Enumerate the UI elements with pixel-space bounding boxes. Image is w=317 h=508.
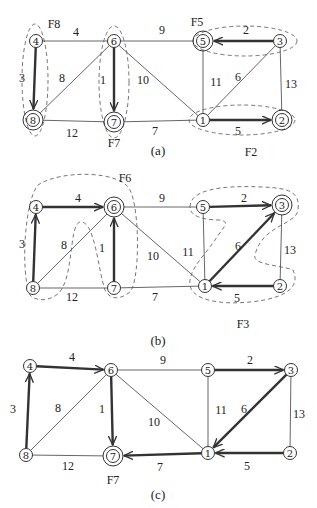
arc-weight-label: 2 [247, 353, 253, 367]
node-label: 6 [111, 36, 117, 47]
edge-3-2 [280, 47, 282, 110]
arc-weight-label: 1 [99, 241, 105, 255]
edge-7-1 [124, 120, 197, 122]
node-label: 7 [111, 283, 117, 294]
node-label: 4 [33, 202, 39, 213]
node-label: 2 [277, 281, 283, 292]
graph-node-7: 7 [108, 282, 121, 295]
edge-weight-label: 11 [215, 403, 227, 417]
node-label: 3 [288, 365, 294, 376]
arc-weight-label: 2 [243, 23, 249, 37]
fragment-label: F2 [245, 145, 258, 159]
graph-canvas: 465387124653871246538712 491278101161331… [0, 0, 317, 508]
edge-5-1 [203, 213, 205, 279]
arc-4-6 [36, 366, 103, 369]
graph-node-1: 1 [199, 280, 212, 293]
edge-weight-label: 4 [73, 25, 79, 39]
edge-weight-label: 8 [59, 71, 65, 85]
arc-weight-label: 2 [241, 191, 247, 205]
graph-node-3: 3 [285, 364, 298, 377]
node-label: 1 [200, 115, 206, 126]
graph-node-8: 8 [20, 449, 33, 462]
edge-6-1 [119, 45, 198, 115]
edge-weight-label: 13 [284, 243, 296, 257]
fragment-label: F5 [191, 15, 204, 29]
graph-node-5: 5 [193, 31, 213, 51]
edge-weight-label: 13 [293, 407, 305, 421]
edge-6-8 [40, 46, 109, 113]
node-label: 6 [111, 202, 117, 213]
fragment-label: F8 [48, 17, 61, 31]
arc-weight-label: 6 [235, 239, 241, 253]
edge-weight-label: 10 [147, 249, 159, 263]
graph-node-1: 1 [197, 114, 210, 127]
edge-weight-label: 12 [66, 126, 78, 140]
node-label: 3 [279, 200, 285, 211]
graph-node-2: 2 [274, 280, 287, 293]
graph-node-4: 4 [30, 201, 43, 214]
graph-node-3: 3 [272, 195, 292, 215]
labels-layer: 49127810116133125F8F7F5F2(a)912781011133… [10, 15, 305, 502]
graph-node-4: 4 [24, 360, 37, 373]
node-label: 2 [279, 115, 285, 126]
arc-weight-label: 1 [100, 73, 106, 87]
edge-weight-label: 8 [61, 238, 67, 252]
arc-weight-label: 5 [244, 459, 250, 473]
node-label: 1 [202, 281, 208, 292]
arc-weight-label: 1 [99, 402, 105, 416]
node-label: 4 [27, 361, 33, 372]
node-label: 7 [111, 117, 117, 128]
node-label: 4 [33, 36, 39, 47]
fragment-label: F7 [108, 136, 121, 150]
graph-node-7: 7 [103, 446, 123, 466]
edge-weight-label: 12 [62, 459, 74, 473]
edge-weight-label: 9 [160, 353, 166, 367]
edge-weight-label: 12 [66, 290, 78, 304]
edge-weight-label: 7 [152, 290, 158, 304]
arc-weight-label: 5 [235, 124, 241, 138]
arc-weight-label: 7 [157, 460, 163, 474]
edge-weight-label: 8 [55, 401, 61, 415]
fragment-label: F6 [119, 171, 132, 185]
graph-node-4: 4 [30, 35, 43, 48]
arc-6-7 [111, 376, 113, 445]
fragment-label: F7 [107, 473, 120, 487]
fragment-label: F3 [237, 317, 250, 331]
graph-node-6: 6 [104, 197, 124, 217]
arc-1-7 [124, 453, 202, 455]
edge-8-7 [43, 120, 104, 122]
edge-weight-label: 11 [182, 245, 194, 259]
arc-weight-label: 6 [241, 402, 247, 416]
graph-node-2: 2 [272, 110, 292, 130]
node-label: 3 [277, 36, 283, 47]
edge-weight-label: 9 [159, 191, 165, 205]
edge-weight-label: 10 [148, 415, 160, 429]
edge-weight-label: 13 [285, 77, 297, 91]
edge-weight-label: 10 [137, 73, 149, 87]
graph-node-3: 3 [274, 35, 287, 48]
arc-weight-label: 3 [19, 237, 25, 251]
arc-weight-label: 4 [75, 191, 81, 205]
node-label: 8 [30, 283, 36, 294]
graph-node-1: 1 [202, 447, 215, 460]
edge-weight-label: 9 [159, 23, 165, 37]
panel-caption-b: (b) [150, 333, 165, 348]
node-label: 1 [205, 448, 211, 459]
graph-node-2: 2 [284, 447, 297, 460]
graph-node-5: 5 [202, 364, 215, 377]
arc-weight-label: 5 [234, 291, 240, 305]
node-label: 5 [200, 202, 206, 213]
node-label: 5 [205, 365, 211, 376]
node-label: 5 [200, 36, 206, 47]
graph-node-5: 5 [197, 201, 210, 214]
node-label: 8 [30, 115, 36, 126]
edge-3-2 [280, 215, 282, 280]
graph-node-8: 8 [23, 110, 43, 130]
node-label: 8 [23, 450, 29, 461]
edge-6-8 [38, 214, 107, 283]
edge-6-8 [31, 375, 107, 451]
node-label: 7 [110, 451, 116, 462]
node-label: 2 [287, 448, 293, 459]
arc-5-3 [209, 205, 271, 207]
panel-caption-a: (a) [151, 143, 165, 158]
